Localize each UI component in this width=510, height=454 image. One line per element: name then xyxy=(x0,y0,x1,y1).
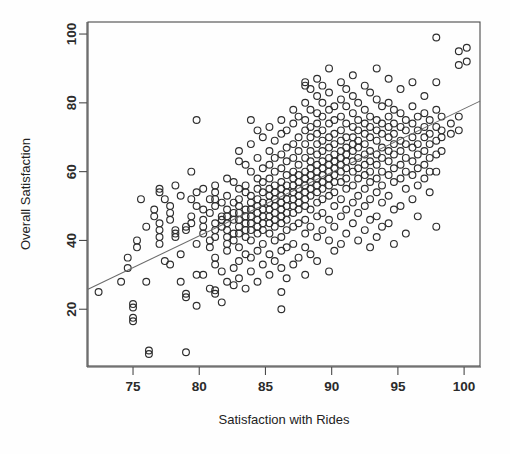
data-point xyxy=(463,58,470,65)
data-point xyxy=(361,106,368,113)
data-point xyxy=(259,227,266,234)
data-point xyxy=(295,113,302,120)
data-point xyxy=(373,175,380,182)
data-point xyxy=(254,278,261,285)
data-point xyxy=(307,165,314,172)
data-point xyxy=(254,154,261,161)
data-point xyxy=(433,34,440,41)
data-point xyxy=(307,185,314,192)
data-point xyxy=(409,79,416,86)
data-point xyxy=(326,268,333,275)
data-point xyxy=(319,99,326,106)
data-point xyxy=(349,110,356,117)
data-point xyxy=(385,75,392,82)
data-point xyxy=(379,103,386,110)
data-point xyxy=(167,203,174,210)
data-point xyxy=(236,148,243,155)
data-point xyxy=(271,189,278,196)
data-point xyxy=(379,182,386,189)
data-point xyxy=(200,223,207,230)
x-tick-label: 80 xyxy=(192,379,207,394)
y-axis: 20406080100 xyxy=(65,22,88,367)
data-point xyxy=(212,234,219,241)
data-point xyxy=(338,113,345,120)
data-point xyxy=(414,141,421,148)
data-point xyxy=(391,206,398,213)
data-point xyxy=(295,192,302,199)
data-point xyxy=(331,103,338,110)
data-point xyxy=(307,172,314,179)
data-point xyxy=(402,230,409,237)
data-point xyxy=(230,265,237,272)
data-point xyxy=(421,175,428,182)
data-point xyxy=(206,210,213,217)
data-point xyxy=(402,168,409,175)
data-point xyxy=(295,172,302,179)
data-point xyxy=(367,113,374,120)
data-point xyxy=(156,234,163,241)
data-point xyxy=(259,213,266,220)
data-point xyxy=(379,130,386,137)
data-point xyxy=(230,179,237,186)
data-point xyxy=(188,220,195,227)
data-point xyxy=(295,179,302,186)
data-point xyxy=(361,141,368,148)
data-point xyxy=(278,151,285,158)
x-tick-label: 85 xyxy=(258,379,274,394)
data-point xyxy=(193,189,200,196)
data-point xyxy=(338,96,345,103)
data-point xyxy=(193,240,200,247)
data-point xyxy=(259,189,266,196)
data-point xyxy=(266,124,273,131)
data-point xyxy=(343,144,350,151)
data-point xyxy=(409,196,416,203)
data-point xyxy=(373,161,380,168)
data-point xyxy=(212,220,219,227)
data-point xyxy=(361,82,368,89)
y-tick-label: 20 xyxy=(65,302,80,317)
data-point xyxy=(193,203,200,210)
data-point xyxy=(271,182,278,189)
data-point xyxy=(355,127,362,134)
data-point xyxy=(254,247,261,254)
data-point xyxy=(438,134,445,141)
data-point xyxy=(367,179,374,186)
data-point xyxy=(156,220,163,227)
data-point xyxy=(421,93,428,100)
plot-canvas: 7580859095100 20406080100 Satisfaction w… xyxy=(0,0,510,454)
data-point xyxy=(230,237,237,244)
data-point xyxy=(271,137,278,144)
data-point xyxy=(379,120,386,127)
data-point xyxy=(355,99,362,106)
data-point xyxy=(319,185,326,192)
data-point xyxy=(200,271,207,278)
data-point xyxy=(271,168,278,175)
data-point xyxy=(290,240,297,247)
y-tick-label: 40 xyxy=(65,233,80,248)
data-point xyxy=(236,223,243,230)
data-point xyxy=(118,278,125,285)
data-point xyxy=(414,151,421,158)
data-point xyxy=(295,161,302,168)
data-point xyxy=(331,189,338,196)
data-point xyxy=(379,199,386,206)
data-point xyxy=(134,237,141,244)
data-point xyxy=(373,234,380,241)
data-point xyxy=(271,210,278,217)
data-point xyxy=(409,120,416,127)
data-point xyxy=(367,134,374,141)
data-point xyxy=(343,206,350,213)
data-point xyxy=(355,165,362,172)
data-point xyxy=(343,185,350,192)
data-point xyxy=(438,148,445,155)
data-point xyxy=(402,127,409,134)
data-point xyxy=(385,158,392,165)
data-point xyxy=(455,48,462,55)
data-point xyxy=(447,130,454,137)
data-point xyxy=(433,168,440,175)
data-point xyxy=(319,113,326,120)
data-point xyxy=(218,268,225,275)
data-point xyxy=(314,93,321,100)
data-point xyxy=(331,151,338,158)
data-point xyxy=(307,192,314,199)
